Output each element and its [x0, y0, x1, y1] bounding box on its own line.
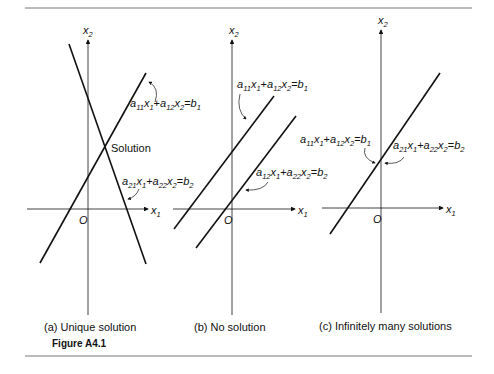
equation-1-label: a11x1+a12x2=b1 — [237, 78, 308, 93]
figure-canvas: x2 x1 O Solution a11x1+a12x2=b1 a21x1+a2… — [0, 0, 494, 374]
equation-1-label: a11x1+a12x2=b1 — [130, 97, 201, 112]
line-equation-2 — [69, 44, 146, 264]
solution-label: Solution — [111, 142, 151, 154]
x1-axis-label: x1 — [445, 203, 456, 218]
x2-axis-label: x2 — [82, 24, 94, 39]
x1-axis-label: x1 — [150, 204, 161, 219]
equation-2-label: a21x1+a22x2=b2 — [122, 175, 194, 190]
caption-b: (b) No solution — [194, 321, 266, 333]
caption-c: (c) Infinitely many solutions — [319, 320, 452, 332]
origin-label: O — [373, 213, 382, 225]
panel-b-no-solution: x2 x1 O a11x1+a12x2=b1 a12x1+a22x2=b2 — [173, 24, 328, 315]
origin-label: O — [79, 214, 88, 226]
line-equation-2 — [196, 116, 296, 248]
origin-label: O — [224, 214, 233, 226]
panel-c-infinitely-many-solutions: x2 x1 O a11x1+a12x2=b1 a21x1+a22x2=b2 — [300, 14, 465, 313]
equation-2-label: a21x1+a22x2=b2 — [393, 139, 465, 154]
x2-axis-label: x2 — [377, 14, 389, 29]
caption-a: (a) Unique solution — [44, 321, 136, 333]
x1-axis-label: x1 — [297, 204, 308, 219]
x2-axis-label: x2 — [228, 24, 240, 39]
equation-1-label: a11x1+a12x2=b1 — [300, 133, 371, 148]
coincident-line — [330, 73, 440, 234]
figure-label: Figure A4.1 — [52, 338, 106, 349]
equation-2-label: a12x1+a22x2=b2 — [256, 166, 328, 181]
panel-a-unique-solution: x2 x1 O Solution a11x1+a12x2=b1 a21x1+a2… — [27, 24, 201, 315]
